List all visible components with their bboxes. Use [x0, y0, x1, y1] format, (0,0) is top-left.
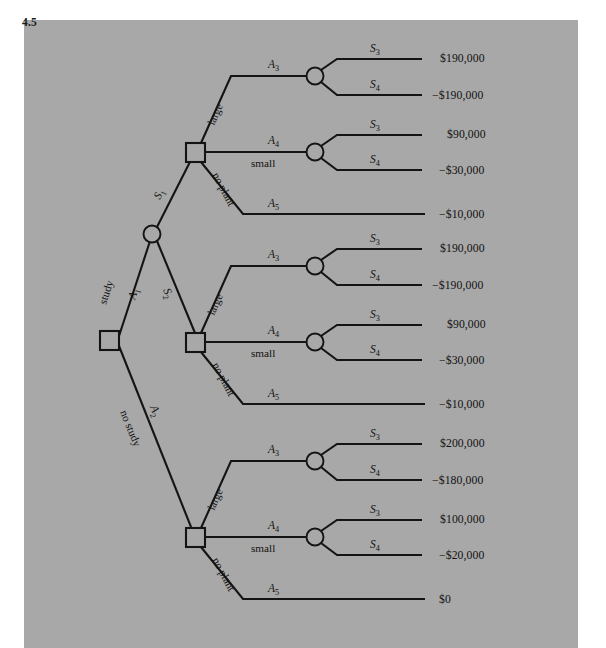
branch-s3b-top[interactable]: [321, 135, 422, 146]
label-s4-mid: S4: [370, 268, 380, 283]
label-study: study: [96, 278, 115, 305]
figure-page: 4.5 study A1 no study A2 S1 S2: [0, 0, 606, 648]
branch-s1[interactable]: [157, 152, 195, 227]
payoff-mid-s3: $190,000: [440, 242, 485, 255]
label-small-bot: small: [251, 542, 275, 554]
chance-node-study[interactable]: [144, 226, 161, 243]
branch-s2[interactable]: [157, 241, 195, 333]
label-a4-bot: A4: [267, 519, 279, 534]
label-small-mid: small: [251, 347, 275, 359]
label-s4-bot: S4: [370, 463, 380, 478]
chance-node-a3-bot[interactable]: [307, 453, 324, 470]
label-large-mid: large: [205, 292, 225, 317]
branch-study-a1[interactable]: [119, 235, 152, 336]
chance-node-a4-top[interactable]: [307, 144, 324, 161]
payoff-mid-s3b: $90,000: [447, 318, 486, 331]
label-s4b-bot: S4: [370, 538, 380, 553]
label-a4-top: A4: [267, 134, 279, 149]
payoff-top-s4b: −$30,000: [439, 164, 484, 177]
branch-s3-bot[interactable]: [321, 444, 422, 455]
chance-node-a3-top[interactable]: [307, 68, 324, 85]
label-a4-mid: A4: [267, 324, 279, 339]
payoff-bot-s4: −$180,000: [432, 474, 483, 487]
label-a3-bot: A3: [267, 443, 279, 458]
label-a1: A1: [125, 286, 143, 302]
payoff-bot-s4b: −$20,000: [439, 549, 484, 562]
branch-s3-top[interactable]: [321, 59, 422, 70]
branch-s3-mid[interactable]: [321, 249, 422, 260]
decision-tree-diagram: study A1 no study A2 S1 S2 large A3: [0, 0, 606, 648]
payoff-top-a5: −$10,000: [439, 208, 484, 221]
label-a3-mid: A3: [267, 248, 279, 263]
label-s3-top: S3: [370, 42, 380, 57]
payoff-bot-a5: $0: [439, 593, 451, 606]
chance-node-a4-bot[interactable]: [307, 529, 324, 546]
label-a5-bot: A5: [267, 582, 279, 597]
branch-s3b-bot[interactable]: [321, 520, 422, 531]
payoff-bot-s3: $200,000: [440, 437, 485, 450]
root-decision-node-group: [100, 331, 119, 350]
label-a3-top: A3: [267, 58, 279, 73]
payoff-top-s3: $190,000: [440, 52, 485, 65]
decision-node-s2[interactable]: [186, 333, 205, 352]
payoff-mid-s4: −$190,000: [432, 279, 483, 292]
label-small-top: small: [251, 157, 275, 169]
decision-node-s1[interactable]: [186, 143, 205, 162]
payoff-mid-s4b: −$30,000: [439, 354, 484, 367]
branch-s3b-mid[interactable]: [321, 325, 422, 336]
label-s3b-bot: S3: [370, 503, 380, 518]
payoff-mid-a5: −$10,000: [439, 398, 484, 411]
label-s4b-mid: S4: [370, 343, 380, 358]
label-s3-bot: S3: [370, 427, 380, 442]
root-decision-node[interactable]: [100, 331, 119, 350]
chance-node-a4-mid[interactable]: [307, 334, 324, 351]
label-a5-mid: A5: [267, 387, 279, 402]
label-s2: S2: [158, 286, 176, 301]
label-s3b-top: S3: [370, 118, 380, 133]
chance-node-a3-mid[interactable]: [307, 258, 324, 275]
payoff-top-s4: −$190,000: [432, 89, 483, 102]
label-no-plant-top: no plant: [210, 170, 238, 209]
label-s3-mid: S3: [370, 232, 380, 247]
label-a5-top: A5: [267, 197, 279, 212]
label-no-plant-bot: no plant: [210, 555, 238, 594]
payoff-bot-s3b: $100,000: [440, 513, 485, 526]
label-large-top: large: [205, 102, 225, 127]
label-s4b-top: S4: [370, 153, 380, 168]
payoff-top-s3b: $90,000: [447, 128, 486, 141]
label-no-study: no study: [118, 408, 144, 448]
label-s3b-mid: S3: [370, 308, 380, 323]
label-no-plant-mid: no plant: [210, 360, 238, 399]
decision-node-no-study[interactable]: [186, 528, 205, 547]
label-s1: S1: [151, 187, 169, 203]
label-s4-top: S4: [370, 78, 380, 93]
label-large-bot: large: [205, 487, 225, 512]
